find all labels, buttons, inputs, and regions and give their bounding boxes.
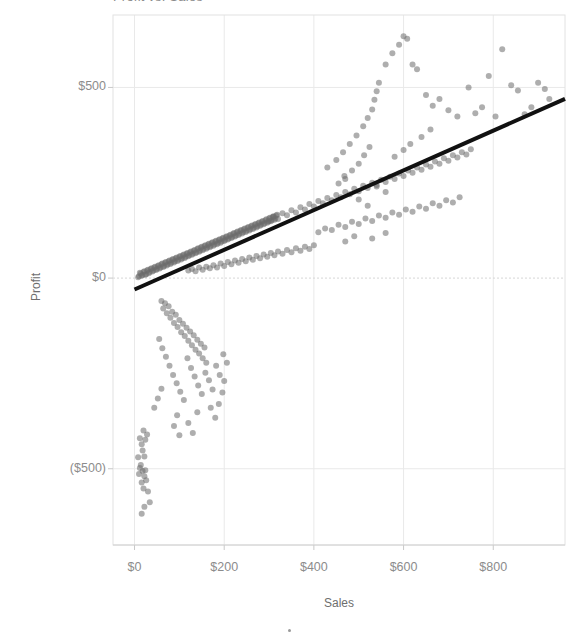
data-point xyxy=(151,405,157,411)
data-point xyxy=(173,312,179,318)
data-point xyxy=(360,123,366,129)
data-point xyxy=(436,161,442,167)
data-point xyxy=(356,197,362,203)
x-axis-title: Sales xyxy=(113,596,565,610)
data-point xyxy=(158,386,164,392)
data-point xyxy=(407,141,413,147)
data-point xyxy=(203,360,209,366)
data-point xyxy=(177,389,183,395)
data-point xyxy=(166,303,172,309)
data-point xyxy=(546,96,552,102)
data-point xyxy=(340,149,346,155)
data-point xyxy=(463,152,469,158)
data-point xyxy=(210,386,216,392)
data-point xyxy=(436,203,442,209)
data-point xyxy=(167,315,173,321)
gridlines xyxy=(113,15,565,545)
x-tick-label: $200 xyxy=(184,560,264,574)
trend-line xyxy=(135,99,565,290)
data-point xyxy=(361,152,367,158)
data-point xyxy=(143,477,149,483)
data-point xyxy=(369,107,375,113)
data-point xyxy=(369,235,375,241)
data-point xyxy=(365,115,371,121)
data-point xyxy=(167,363,173,369)
data-point xyxy=(220,351,226,357)
data-point xyxy=(171,423,177,429)
data-point xyxy=(479,104,485,110)
data-point xyxy=(163,354,169,360)
data-point xyxy=(410,62,416,68)
data-point xyxy=(181,397,187,403)
data-point xyxy=(144,431,150,437)
data-point xyxy=(356,221,362,227)
data-point xyxy=(185,420,191,426)
data-point xyxy=(423,206,429,212)
data-point xyxy=(383,215,389,221)
data-point xyxy=(454,155,460,161)
data-point xyxy=(486,73,492,79)
data-point xyxy=(174,380,180,386)
data-point xyxy=(430,103,436,109)
data-point xyxy=(195,383,201,389)
data-point xyxy=(192,373,198,379)
data-point xyxy=(401,173,407,179)
data-point xyxy=(410,170,416,176)
data-point xyxy=(341,173,347,179)
data-point xyxy=(349,219,355,225)
y-tick-label: ($500) xyxy=(20,461,106,475)
data-point xyxy=(515,88,521,94)
data-point xyxy=(293,210,299,216)
data-point xyxy=(155,396,161,402)
data-point xyxy=(140,447,146,453)
data-point xyxy=(137,435,143,441)
data-points xyxy=(135,33,552,516)
data-point xyxy=(137,465,143,471)
data-point xyxy=(175,324,181,330)
data-point xyxy=(416,203,422,209)
data-point xyxy=(445,107,451,113)
data-point xyxy=(347,141,353,147)
data-point xyxy=(436,96,442,102)
y-tick-label: $500 xyxy=(20,79,106,93)
data-point xyxy=(159,345,165,351)
data-point xyxy=(396,42,402,48)
data-point xyxy=(315,229,321,235)
data-point xyxy=(217,372,223,378)
scatter-chart: Profit vs. Sales Profit Sales $0$200$400… xyxy=(0,0,583,640)
data-point xyxy=(216,401,222,407)
data-point xyxy=(342,238,348,244)
data-point xyxy=(443,197,449,203)
data-point xyxy=(145,489,151,495)
x-tick-label: $600 xyxy=(364,560,444,574)
data-point xyxy=(202,370,208,376)
data-point xyxy=(427,126,433,132)
data-point xyxy=(349,168,355,174)
data-point xyxy=(342,224,348,230)
data-point xyxy=(135,454,141,460)
data-point xyxy=(414,66,420,72)
data-point xyxy=(208,405,214,411)
data-point xyxy=(311,242,317,248)
data-point xyxy=(366,144,372,150)
data-point xyxy=(396,212,402,218)
data-point xyxy=(445,158,451,164)
data-point xyxy=(528,104,534,110)
data-point xyxy=(389,210,395,216)
y-tick-label: $0 xyxy=(20,270,106,284)
data-point xyxy=(419,134,425,140)
data-point xyxy=(419,167,425,173)
data-point xyxy=(139,441,145,447)
data-point xyxy=(410,209,416,215)
x-tick-label: $400 xyxy=(274,560,354,574)
tick-marks xyxy=(108,87,565,550)
data-point xyxy=(430,200,436,206)
data-point xyxy=(427,164,433,170)
data-point xyxy=(466,84,472,90)
data-point xyxy=(174,412,180,418)
data-point xyxy=(221,378,227,384)
data-point xyxy=(535,80,541,86)
data-point xyxy=(472,110,478,116)
data-point xyxy=(322,226,328,232)
data-point xyxy=(392,154,398,160)
